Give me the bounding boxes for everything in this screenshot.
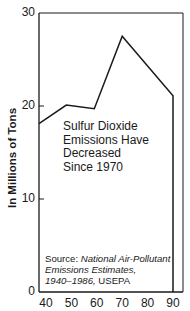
x-tick-label: 90 bbox=[161, 296, 185, 310]
source-title-3: 1940–1986, bbox=[45, 275, 96, 286]
source-prefix: Source: bbox=[45, 253, 81, 264]
annotation-line: Sulfur Dioxide bbox=[63, 120, 149, 134]
annotation-line: Decreased bbox=[63, 147, 149, 161]
source-publisher: USEPA bbox=[96, 275, 130, 286]
source-note: Source: National Air-Pollutant Emissions… bbox=[45, 253, 170, 286]
x-tick-label: 40 bbox=[34, 296, 58, 310]
x-tick-label: 70 bbox=[110, 296, 134, 310]
y-tick-label: 0 bbox=[9, 284, 35, 298]
source-title-2: Emissions Estimates, bbox=[45, 264, 136, 275]
x-tick-label: 80 bbox=[136, 296, 160, 310]
annotation-line: Emissions Have bbox=[63, 134, 149, 148]
x-tick-label: 60 bbox=[85, 296, 109, 310]
x-tick-label: 50 bbox=[59, 296, 83, 310]
y-tick-label: 30 bbox=[9, 5, 35, 19]
annotation-line: Since 1970 bbox=[63, 161, 149, 175]
y-axis-title: In Millions of Tons bbox=[6, 106, 18, 210]
source-title-1: National Air-Pollutant bbox=[81, 253, 171, 264]
chart-annotation: Sulfur Dioxide Emissions Have Decreased … bbox=[63, 120, 149, 175]
